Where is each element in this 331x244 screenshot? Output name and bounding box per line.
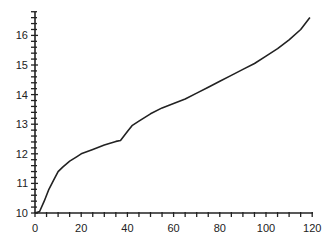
y-tick-label: 16 (16, 29, 28, 41)
data-line (35, 18, 310, 213)
y-tick-label: 10 (16, 207, 28, 219)
axis-ticks (31, 12, 312, 217)
tick-labels: 10111213141516020406080100120 (16, 29, 322, 234)
x-tick-label: 100 (257, 222, 275, 234)
x-tick-label: 60 (167, 222, 179, 234)
y-tick-label: 14 (16, 89, 28, 101)
x-tick-label: 120 (303, 222, 321, 234)
x-tick-label: 0 (32, 222, 38, 234)
y-tick-label: 11 (17, 177, 28, 189)
y-tick-label: 12 (16, 148, 28, 160)
x-tick-label: 20 (75, 222, 87, 234)
line-chart: 10111213141516020406080100120 (0, 0, 331, 244)
x-tick-label: 40 (121, 222, 133, 234)
axes (35, 12, 313, 213)
y-tick-label: 15 (16, 59, 28, 71)
y-tick-label: 13 (16, 118, 28, 130)
x-tick-label: 80 (214, 222, 226, 234)
